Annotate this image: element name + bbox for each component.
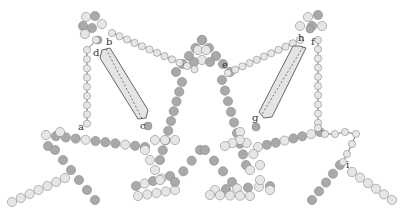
bead [160,135,169,144]
tether-bead [153,49,160,56]
bead [363,179,372,188]
tether-bead [314,73,321,80]
bead [81,135,90,144]
bead [80,29,89,38]
bead [255,160,264,169]
bead [52,177,61,186]
bead [197,35,206,44]
bead [298,132,307,141]
tether-bead [146,46,153,53]
bead [7,197,16,206]
tether-bead [314,55,321,62]
label-b: b [106,36,112,47]
bead [289,134,298,143]
tether-bead [314,46,321,53]
bead [328,169,337,178]
bead [164,126,173,135]
tether-bead [314,101,321,108]
bead [205,190,214,199]
bead [220,141,229,150]
bead [271,138,280,147]
tether-bead [83,56,90,63]
bead [155,175,164,184]
bead [169,107,178,116]
bead [252,123,260,131]
bead [166,116,175,125]
tether-bead [314,92,321,99]
bead [355,173,364,182]
bead [121,140,130,149]
label-a: a [78,121,84,132]
bead-diagram: abcdefghi [0,0,401,219]
bead [314,187,323,196]
tether-bead [314,82,321,89]
label-c: c [140,120,146,131]
bead [150,135,159,144]
bead [55,127,64,136]
bead [245,165,254,174]
tether-bead [191,66,198,73]
bead [50,145,59,154]
bead [321,178,330,187]
label-i: i [346,159,349,170]
bead [175,87,184,96]
tether-bead [224,69,231,76]
bead [295,21,304,30]
bead [200,145,209,154]
bead [387,195,396,204]
bead [209,156,218,165]
diagram-canvas: abcdefghi [0,0,401,219]
tether-bead [176,59,183,66]
label-h: h [298,32,305,43]
tether-bead [343,150,350,157]
bead [171,67,180,76]
bead [177,77,186,86]
bead [220,86,229,95]
bead [215,191,224,200]
tether-bead [168,56,175,63]
tether-bead [83,111,90,118]
tether-bead [83,102,90,109]
tether-bead [183,62,190,69]
bead [143,190,152,199]
bead [71,134,80,143]
tether-bead [282,43,289,50]
bead [101,138,110,147]
bead [379,190,388,199]
bead [170,135,179,144]
bead [170,177,179,186]
tether-bead [348,140,355,147]
bead [223,97,232,106]
tether-bead [123,36,130,43]
bead [179,167,188,176]
tether-bead [314,64,321,71]
bead [74,175,83,184]
tether-bead [83,46,90,53]
bead [131,181,140,190]
bead [60,173,69,182]
bead [262,140,271,149]
bead [245,191,254,200]
tether-bead [341,128,348,135]
bead [187,156,196,165]
bead [90,195,99,204]
bead [140,145,149,154]
bead [226,107,235,116]
bead [307,195,316,204]
bead [158,146,167,155]
label-g: g [252,112,259,123]
tether-bead [131,39,138,46]
tether-bead [116,33,123,40]
tether-bead [314,36,321,43]
tether-bead [253,56,260,63]
tether-bead [239,63,246,70]
bead [238,150,247,159]
bead [161,187,170,196]
bead [152,188,161,197]
bead [313,10,322,19]
bead [371,184,380,193]
bead [66,165,75,174]
bead [205,57,214,66]
bead [235,191,244,200]
tether-bead [92,36,99,43]
